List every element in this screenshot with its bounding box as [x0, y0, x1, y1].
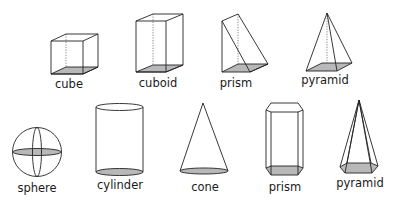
square-pyramid-figure: pyramid	[301, 13, 352, 87]
cone-figure: cone	[180, 103, 228, 194]
pentagonal-pyramid-figure: pyramid	[336, 100, 384, 190]
pentagonal-pyramid-label: pyramid	[336, 176, 384, 190]
triangular-prism-label: prism	[220, 76, 252, 90]
hexagonal-prism-figure: prism	[266, 103, 303, 194]
cube-label: cube	[55, 77, 83, 91]
cuboid-figure: cuboid	[136, 14, 183, 90]
sphere-label: sphere	[17, 181, 56, 195]
cone-label: cone	[191, 180, 219, 194]
cube-figure: cube	[51, 34, 98, 91]
sphere-figure: sphere	[13, 128, 62, 196]
cylinder-label: cylinder	[97, 178, 143, 192]
solid-shapes-diagram: cube cuboid prism pyramid sphere	[0, 0, 395, 203]
square-pyramid-label: pyramid	[301, 73, 349, 87]
triangular-prism-figure: prism	[220, 14, 268, 90]
cuboid-label: cuboid	[139, 76, 177, 90]
hexagonal-prism-label: prism	[269, 180, 301, 194]
cylinder-figure: cylinder	[96, 104, 143, 193]
